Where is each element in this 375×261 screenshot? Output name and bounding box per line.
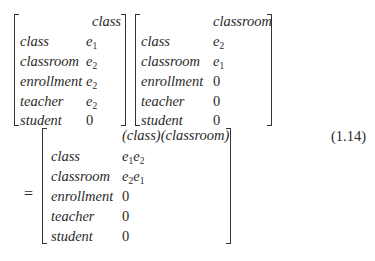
matrix-result-row-label: classroom xyxy=(51,169,110,184)
matrix-result-row-label: class xyxy=(51,149,80,164)
matrix-b-cell: 0 xyxy=(213,94,220,109)
matrix-a-row-label: teacher xyxy=(20,94,63,109)
matrix-result-cell: e1e2 xyxy=(122,149,144,164)
matrix-b-cell: 0 xyxy=(213,113,220,128)
matrix-result-cell: 0 xyxy=(122,189,129,204)
matrix-result-row-label: teacher xyxy=(51,209,94,224)
matrix-result-header: (class)(classroom) xyxy=(122,128,229,143)
matrix-result-row-label: student xyxy=(51,229,93,244)
matrix-a-row-label: class xyxy=(20,34,49,49)
matrix-a-cell: e2 xyxy=(86,54,97,69)
matrix-a-right-bracket xyxy=(121,14,126,126)
matrix-a-row-label: classroom xyxy=(20,54,79,69)
matrix-b-header: classroom xyxy=(213,14,272,29)
matrix-a-cell: e2 xyxy=(86,94,97,109)
matrix-result-cell: e2e1 xyxy=(122,169,144,184)
matrix-b-left-bracket xyxy=(135,14,140,126)
matrix-a-row-label: student xyxy=(20,113,62,128)
matrix-result-left-bracket xyxy=(42,128,47,244)
equation-number: (1.14) xyxy=(331,129,366,144)
matrix-result-row-label: enrollment xyxy=(51,189,113,204)
matrix-b-cell: e2 xyxy=(213,34,224,49)
matrix-a-cell: e2 xyxy=(86,74,97,89)
matrix-b-row-label: classroom xyxy=(141,54,200,69)
matrix-a-header: class xyxy=(92,14,121,29)
matrix-result-right-bracket xyxy=(226,128,231,244)
matrix-b-cell: 0 xyxy=(213,74,220,89)
matrix-b-row-label: teacher xyxy=(141,94,184,109)
matrix-b-row-label: class xyxy=(141,34,170,49)
matrix-b-cell: e1 xyxy=(213,54,224,69)
matrix-result-cell: 0 xyxy=(122,209,129,224)
matrix-a-cell: e1 xyxy=(86,34,97,49)
matrix-b-right-bracket xyxy=(267,14,272,126)
matrix-a-left-bracket xyxy=(14,14,19,126)
matrix-b-row-label: student xyxy=(141,113,183,128)
matrix-a-cell: 0 xyxy=(86,113,93,128)
matrix-result-cell: 0 xyxy=(122,229,129,244)
equals-sign: = xyxy=(24,186,33,202)
matrix-a-row-label: enrollment xyxy=(20,74,82,89)
matrix-b-row-label: enrollment xyxy=(141,74,203,89)
